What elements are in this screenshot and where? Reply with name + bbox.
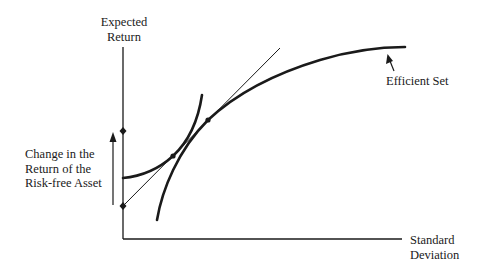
efficient-set-label-text: Efficient Set xyxy=(386,74,449,89)
x-axis-label: Standard Deviation xyxy=(410,233,459,262)
efficient-set-diagram xyxy=(0,0,481,275)
risk-free-change-line1: Change in the xyxy=(25,147,102,162)
y-axis-label-line1: Expected xyxy=(94,15,154,30)
x-axis-label-line2: Deviation xyxy=(410,248,459,263)
tangency-point-efficient-set xyxy=(205,117,210,122)
y-axis-label: Expected Return xyxy=(94,15,154,44)
efficient-set-label: Efficient Set xyxy=(386,74,449,89)
tangency-point-indifference xyxy=(170,153,175,158)
efficient-set-curve xyxy=(157,47,405,220)
risk-free-change-line2: Return of the xyxy=(25,162,102,177)
arrow-pointer-icon xyxy=(386,54,393,64)
indifference-curve xyxy=(123,95,202,178)
efficient-set-pointer-shaft xyxy=(390,61,394,71)
risk-free-change-label: Change in the Return of the Risk-free As… xyxy=(25,147,102,191)
risk-free-new-marker xyxy=(120,127,127,135)
y-axis-label-line2: Return xyxy=(94,30,154,45)
arrow-up-icon xyxy=(110,132,117,142)
x-axis-label-line1: Standard xyxy=(410,233,459,248)
risk-free-change-line3: Risk-free Asset xyxy=(25,176,102,191)
